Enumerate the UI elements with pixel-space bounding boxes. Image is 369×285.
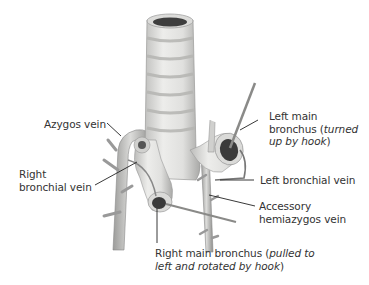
label-accessory-hemiazygos-vein: Accessory hemiazygos vein bbox=[259, 200, 346, 225]
label-left-main-bronchus: Left main bronchus (turned up by hook) bbox=[269, 110, 358, 148]
label-right-main-bronchus: Right main bronchus (pulled to left and … bbox=[155, 247, 315, 272]
label-left-bronchial-vein: Left bronchial vein bbox=[260, 174, 355, 187]
label-azygos-vein: Azygos vein bbox=[44, 118, 106, 131]
label-right-bronchial-vein: Right bronchial vein bbox=[19, 168, 92, 193]
